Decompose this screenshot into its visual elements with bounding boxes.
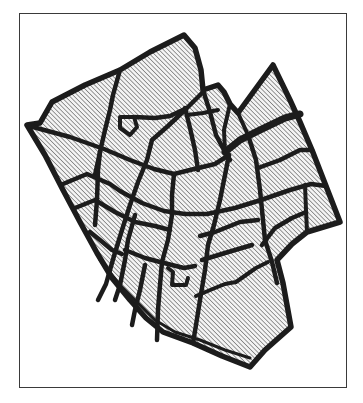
district-area xyxy=(27,35,340,367)
street xyxy=(305,185,307,232)
street-map xyxy=(0,0,363,403)
